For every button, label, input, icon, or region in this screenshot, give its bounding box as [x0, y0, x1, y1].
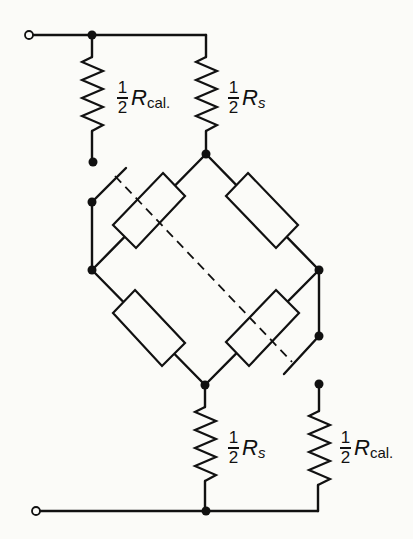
- bridge-arm-lower-right: [226, 290, 299, 366]
- label-rcal-top: 1 2 Rcal.: [117, 80, 170, 116]
- bridge-arm-upper-right: [226, 173, 298, 248]
- resistor-rcal-top: [82, 35, 103, 162]
- resistor-rs-bottom: [195, 385, 216, 511]
- resistor-rcal-bottom: [309, 384, 330, 511]
- switch-left-pivot: [88, 198, 97, 207]
- resistor-rs-top: [196, 57, 217, 154]
- bridge-arm-lower-left: [113, 290, 185, 366]
- fraction: 1 2: [228, 430, 239, 466]
- terminal-bottom: [32, 507, 40, 515]
- label-rcal-bottom: 1 2 Rcal.: [340, 430, 393, 466]
- label-rs-bottom: 1 2 Rs: [228, 430, 265, 466]
- top-rail: [33, 35, 206, 57]
- label-rs-top: 1 2 Rs: [228, 80, 265, 116]
- junction-bottom: [202, 507, 211, 516]
- fraction: 1 2: [340, 430, 351, 466]
- fraction: 1 2: [117, 80, 128, 116]
- switch-left-contact-top: [89, 158, 98, 167]
- terminal-top: [25, 31, 33, 39]
- fraction: 1 2: [228, 80, 239, 116]
- switch-right-pivot: [315, 332, 324, 341]
